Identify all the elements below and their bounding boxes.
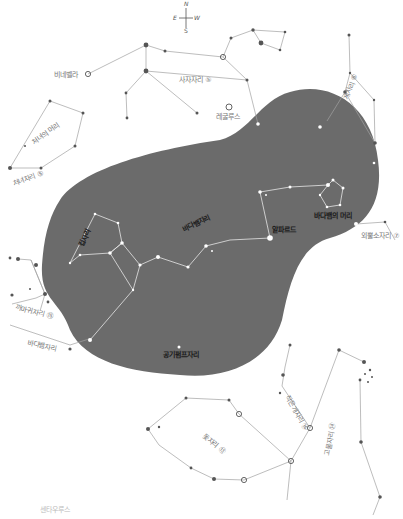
label-monoceros: 외뿔소자리 ⑦: [361, 233, 400, 240]
compass-west: W: [194, 15, 200, 21]
compass-south: S: [184, 28, 188, 34]
label-regulus: 레굴루스: [216, 114, 240, 121]
label-leo: 사자자리 ⑤: [179, 77, 212, 84]
compass-north: N: [184, 1, 189, 7]
label-alphard: 알파르드: [272, 227, 296, 234]
label-vindemiatrix: 비네벨라: [54, 72, 78, 79]
compass-icon: [179, 8, 193, 28]
label-hydra-head: 바다뱀의 머리: [314, 213, 352, 220]
label-antlia: 공기펌프자리: [163, 352, 199, 359]
label-footer: 센타우루스: [40, 507, 70, 514]
compass-east: E: [173, 15, 177, 21]
